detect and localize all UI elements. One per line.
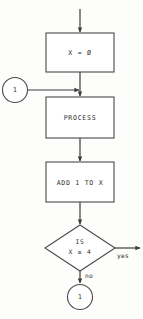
node-decision-label-line1: IS [75, 238, 84, 245]
node-decision-label-line2: X ≥ 4 [69, 248, 92, 255]
node-connector-in-label: 1 [13, 86, 17, 94]
node-init-label: X = Ø [68, 49, 91, 57]
branch-no-label: no [85, 272, 93, 279]
node-process-label: PROCESS [64, 114, 97, 122]
node-connector-out-label: 1 [78, 293, 82, 301]
node-increment-label: ADD 1 TO X [57, 179, 104, 187]
flowchart-diagram: X = Ø 1 PROCESS ADD 1 TO X IS X ≥ 4 yes … [0, 0, 143, 319]
branch-yes-label: yes [117, 252, 129, 260]
flowchart-canvas: X = Ø 1 PROCESS ADD 1 TO X IS X ≥ 4 yes … [0, 0, 143, 319]
